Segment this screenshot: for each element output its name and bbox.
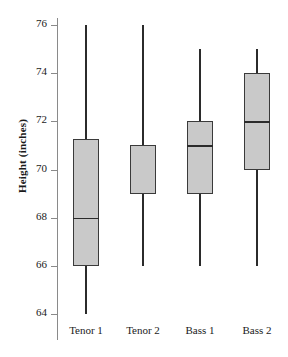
y-tick-label: 76 (36, 17, 47, 29)
x-tick-label: Bass 2 (229, 324, 285, 336)
y-tick-label: 72 (36, 113, 47, 125)
y-tick-68: 68 (51, 218, 57, 219)
lower-whisker (256, 170, 257, 266)
x-tick-label: Bass 1 (172, 324, 228, 336)
y-axis-label: Height (inches) (16, 96, 28, 216)
box-group[interactable]: Tenor 2 (115, 0, 171, 357)
iqr-box[interactable] (73, 139, 99, 265)
boxplot-chart: Height (inches) 64666870727476 Tenor 1Te… (0, 0, 288, 357)
y-tick-70: 70 (51, 170, 57, 171)
lower-whisker (85, 266, 86, 314)
box-group[interactable]: Bass 2 (229, 0, 285, 357)
upper-whisker (256, 49, 257, 73)
upper-whisker (142, 25, 143, 145)
upper-whisker (85, 25, 86, 139)
y-tick-76: 76 (51, 25, 57, 26)
y-tick-label: 64 (36, 306, 47, 318)
y-tick-label: 74 (36, 65, 47, 77)
median-line (244, 121, 270, 122)
y-tick-72: 72 (51, 121, 57, 122)
y-tick-label: 70 (36, 162, 47, 174)
lower-whisker (199, 194, 200, 266)
box-group[interactable]: Bass 1 (172, 0, 228, 357)
y-tick-64: 64 (51, 314, 57, 315)
box-group[interactable]: Tenor 1 (58, 0, 114, 357)
median-line (73, 218, 99, 219)
y-tick-label: 68 (36, 210, 47, 222)
iqr-box[interactable] (130, 145, 156, 193)
x-tick-label: Tenor 2 (115, 324, 171, 336)
y-tick-label: 66 (36, 258, 47, 270)
y-tick-66: 66 (51, 266, 57, 267)
median-line (187, 145, 213, 146)
x-tick-label: Tenor 1 (58, 324, 114, 336)
upper-whisker (199, 49, 200, 121)
lower-whisker (142, 194, 143, 266)
y-tick-74: 74 (51, 73, 57, 74)
iqr-box[interactable] (187, 121, 213, 193)
plot-area: Tenor 1Tenor 2Bass 1Bass 2 (58, 0, 288, 357)
